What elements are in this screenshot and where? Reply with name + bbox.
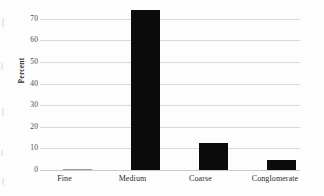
x-tick-label-medium: Medium: [111, 174, 154, 184]
y-tick-label: 60: [16, 36, 38, 44]
scan-artifact: [2, 178, 4, 185]
x-tick-label-fine: Fine: [43, 174, 86, 184]
scan-artifact: [2, 18, 4, 27]
y-tick-label: 30: [16, 101, 38, 109]
bar-conglomerate: [267, 160, 296, 170]
bar-fine: [63, 169, 92, 170]
bars-layer: [40, 6, 300, 170]
y-tick-label: 0: [16, 166, 38, 174]
scan-artifact: [1, 150, 3, 156]
scan-artifact: [2, 108, 4, 116]
y-axis-tick-labels: 70 60 50 40 30 20 10 0: [10, 6, 38, 170]
y-tick-label: 70: [16, 15, 38, 23]
y-tick-label: 10: [16, 144, 38, 152]
bar-chart-figure: Percent 70 60 50 40 30 20 10 0 Fine Medi…: [0, 0, 324, 196]
bar-coarse: [199, 143, 228, 170]
y-tick-label: 50: [16, 58, 38, 66]
x-tick-label-coarse: Coarse: [179, 174, 222, 184]
bar-medium: [131, 10, 160, 170]
scan-artifact: [1, 63, 3, 70]
y-tick-label: 20: [16, 123, 38, 131]
gridline-zero-axis: [40, 170, 300, 171]
x-tick-label-conglomerate: Conglomerate: [239, 174, 311, 184]
y-tick-label: 40: [16, 80, 38, 88]
